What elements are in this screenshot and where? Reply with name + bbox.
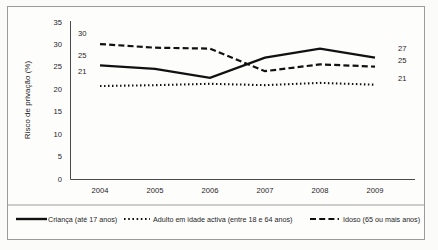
end-label-adulto: 21 xyxy=(398,74,406,83)
x-tick-label: 2008 xyxy=(312,186,329,195)
y-tick-label: 35 xyxy=(54,18,62,27)
chart-legend: Criança (até 17 anos) Adulto em idade ac… xyxy=(16,215,420,224)
series-group xyxy=(100,44,375,86)
y-tick-label: 30 xyxy=(54,40,62,49)
y-tick-label: 20 xyxy=(54,85,62,94)
y-tick-labels: 35 30 25 20 15 10 5 0 xyxy=(54,18,62,184)
x-tick-labels: 2004 2005 2006 2007 2008 2009 xyxy=(92,186,384,195)
end-label-crianca: 27 xyxy=(398,44,406,53)
series-line-1 xyxy=(100,83,375,86)
x-tick-label: 2004 xyxy=(92,186,109,195)
legend-label-crianca: Criança (até 17 anos) xyxy=(48,215,117,224)
chart-figure: Risco de privação (%) 35 30 25 20 15 10 … xyxy=(0,0,438,250)
start-label-crianca: 25 xyxy=(78,51,86,60)
start-label-idoso: 30 xyxy=(78,29,86,38)
x-tick-label: 2006 xyxy=(202,186,219,195)
legend-label-adulto: Adulto em idade activa (entre 18 e 64 an… xyxy=(153,215,292,224)
y-tick-label: 25 xyxy=(54,62,62,71)
series-line-0 xyxy=(100,49,375,78)
y-axis-title: Risco de privação (%) xyxy=(23,61,32,140)
y-tick-label: 5 xyxy=(58,152,62,161)
x-tick-label: 2007 xyxy=(257,186,274,195)
legend-label-idoso: Idoso (65 ou mais anos) xyxy=(343,215,420,224)
line-chart: Risco de privação (%) 35 30 25 20 15 10 … xyxy=(0,0,438,250)
x-tick-label: 2005 xyxy=(147,186,164,195)
y-tick-label: 0 xyxy=(58,175,62,184)
y-tick-label: 15 xyxy=(54,107,62,116)
end-label-idoso: 25 xyxy=(398,56,406,65)
x-tick-label: 2009 xyxy=(367,186,384,195)
y-tick-label: 10 xyxy=(54,130,62,139)
start-label-adulto: 21 xyxy=(78,67,86,76)
